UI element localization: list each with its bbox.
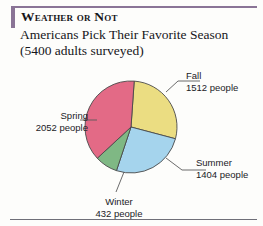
slice-label-winter-value: 432 people [86, 208, 152, 220]
slice-label-fall: Fall 1512 people [186, 70, 238, 93]
leader-line-winter [116, 172, 124, 192]
slice-label-summer-value: 1404 people [196, 169, 248, 181]
slice-label-summer: Summer 1404 people [196, 157, 248, 180]
slice-label-fall-name: Fall [186, 70, 238, 82]
slice-label-fall-value: 1512 people [186, 82, 238, 94]
slice-label-summer-name: Summer [196, 157, 248, 169]
slice-label-spring-name: Spring [26, 110, 88, 122]
slice-label-spring-value: 2052 people [26, 122, 88, 134]
slice-label-winter-name: Winter [86, 196, 152, 208]
footer-divider [10, 219, 257, 220]
pie-slices [85, 81, 177, 173]
weather-or-not-pie-figure: Weather or Not Americans Pick Their Favo… [0, 0, 263, 226]
slice-label-spring: Spring 2052 people [26, 110, 88, 133]
slice-label-winter: Winter 432 people [86, 196, 152, 219]
